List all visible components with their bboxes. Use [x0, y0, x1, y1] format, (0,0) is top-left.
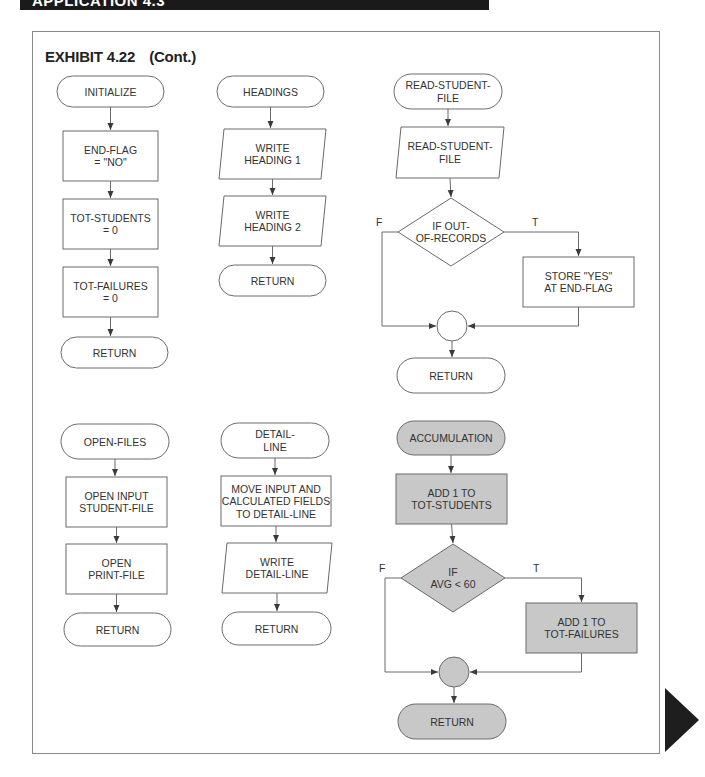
node-label: AT END-FLAG: [544, 282, 612, 294]
node-label: = 0: [103, 292, 118, 304]
decision-acc-decision: IFAVG < 60: [401, 544, 505, 612]
node-label: READ-STUDENT-: [405, 79, 491, 91]
connector-circle: [437, 311, 467, 341]
node-label: ADD 1 TO: [557, 616, 605, 628]
true-branch-label: T: [532, 216, 539, 228]
node-label: TOT-STUDENTS: [70, 212, 150, 224]
flowchart-nodes: INITIALIZEEND-FLAG= "NO"TOT-STUDENTS= 0T…: [57, 74, 637, 739]
node-label: TOT-FAILURES: [73, 280, 148, 292]
process-init-totstudents: TOT-STUDENTS= 0: [63, 199, 158, 249]
terminal-head-return: RETURN: [219, 265, 326, 296]
node-label: = "NO": [94, 156, 127, 168]
node-label: RETURN: [255, 623, 299, 635]
node-label: RETURN: [429, 370, 473, 382]
process-init-totfailures: TOT-FAILURES= 0: [63, 267, 158, 317]
io-head-write1: WRITEHEADING 1: [219, 129, 326, 179]
node-label: WRITE: [256, 209, 290, 221]
node-label: TO DETAIL-LINE: [236, 508, 316, 520]
node-label: CALCULATED FIELDS: [222, 495, 330, 507]
terminal-acc-return: RETURN: [398, 704, 506, 739]
flow-arrow: [470, 653, 582, 672]
node-label: HEADING 1: [244, 154, 301, 166]
next-page-arrow-icon: [665, 688, 699, 752]
io-read-io: READ-STUDENT-FILE: [396, 127, 504, 178]
node-label: AVG < 60: [430, 578, 475, 590]
node-label: READ-STUDENT-: [407, 140, 493, 152]
node-label: HEADING 2: [244, 221, 301, 233]
node-label: RETURN: [251, 275, 295, 287]
node-label: = 0: [103, 224, 118, 236]
terminal-open-start: OPEN-FILES: [61, 424, 169, 459]
true-branch-label: T: [533, 562, 540, 574]
node-label: DETAIL-: [255, 428, 295, 440]
terminal-read-start: READ-STUDENT-FILE: [394, 74, 502, 109]
node-label: FILE: [439, 153, 461, 165]
node-label: INITIALIZE: [85, 86, 137, 98]
node-label: WRITE: [256, 142, 290, 154]
process-read-store: STORE "YES"AT END-FLAG: [523, 257, 634, 307]
node-label: STUDENT-FILE: [79, 502, 154, 514]
node-label: END-FLAG: [84, 144, 137, 156]
node-label: WRITE: [260, 556, 294, 568]
process-init-endflag: END-FLAG= "NO": [63, 131, 158, 181]
connector-acc-connector: [439, 657, 469, 687]
flow-arrow: [468, 307, 579, 326]
process-open-input: OPEN INPUTSTUDENT-FILE: [66, 477, 167, 527]
terminal-acc-start: ACCUMULATION: [397, 421, 505, 455]
terminal-detail-return: RETURN: [222, 612, 331, 645]
node-label: FILE: [437, 92, 459, 104]
node-label: IF: [448, 566, 457, 578]
terminal-detail-start: DETAIL-LINE: [221, 423, 329, 458]
terminal-open-return: RETURN: [64, 613, 171, 646]
node-label: MOVE INPUT AND: [231, 483, 321, 495]
node-label: DETAIL-LINE: [246, 568, 309, 580]
terminal-init-start: INITIALIZE: [57, 76, 164, 107]
flow-arrow: [505, 578, 582, 602]
node-label: STORE "YES": [545, 270, 613, 282]
terminal-head-start: HEADINGS: [217, 76, 324, 107]
node-label: HEADINGS: [243, 86, 298, 98]
process-open-print: OPENPRINT-FILE: [66, 544, 167, 594]
process-acc-add-failures: ADD 1 TOTOT-FAILURES: [526, 603, 637, 653]
connector-read-connector: [437, 311, 467, 341]
process-acc-add-students: ADD 1 TOTOT-STUDENTS: [396, 474, 507, 524]
connector-circle: [439, 657, 469, 687]
io-head-write2: WRITEHEADING 2: [219, 196, 326, 246]
node-label: TOT-STUDENTS: [411, 499, 491, 511]
terminal-init-return: RETURN: [61, 337, 168, 368]
process-detail-move: MOVE INPUT ANDCALCULATED FIELDSTO DETAIL…: [221, 476, 331, 526]
decision-read-decision: IF OUT-OF-RECORDS: [398, 198, 504, 266]
flow-arrow: [450, 178, 451, 197]
node-label: OPEN INPUT: [84, 490, 149, 502]
flowchart-diagram: INITIALIZEEND-FLAG= "NO"TOT-STUDENTS= 0T…: [0, 0, 705, 777]
node-label: RETURN: [93, 347, 137, 359]
flow-arrow: [452, 524, 454, 543]
node-label: ACCUMULATION: [409, 432, 492, 444]
node-label: LINE: [263, 441, 286, 453]
node-label: OF-RECORDS: [416, 232, 487, 244]
node-label: TOT-FAILURES: [544, 628, 619, 640]
terminal-read-return: RETURN: [397, 358, 505, 393]
node-label: PRINT-FILE: [88, 569, 145, 581]
false-branch-label: F: [376, 216, 382, 228]
node-label: ADD 1 TO: [427, 487, 475, 499]
node-label: OPEN: [102, 557, 132, 569]
flow-arrow: [504, 232, 579, 256]
io-detail-write: WRITEDETAIL-LINE: [222, 543, 332, 593]
false-branch-label: F: [379, 562, 385, 574]
flowchart-edges: [111, 107, 582, 703]
node-label: IF OUT-: [432, 220, 470, 232]
node-label: RETURN: [430, 716, 474, 728]
node-label: RETURN: [96, 624, 140, 636]
node-label: OPEN-FILES: [84, 436, 146, 448]
